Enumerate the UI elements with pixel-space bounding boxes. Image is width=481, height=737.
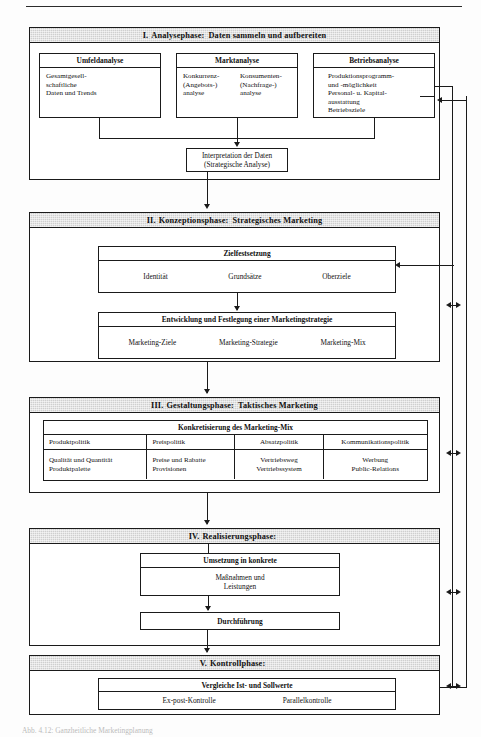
arrowhead-to-interpretation: [234, 142, 240, 147]
phase-header-realisierungsphase: IV. Realisierungsphase :: [30, 529, 439, 544]
top-rule: [26, 6, 462, 7]
text-line: Vertriebssystem: [256, 465, 301, 474]
table-header-cell: Absatzpolitik: [235, 435, 323, 449]
feedback-rail-inner: [452, 86, 453, 688]
text-line: (Strategische Analyse): [204, 160, 270, 169]
text-line: Gesamtgesell-: [46, 72, 154, 81]
feedback-return-bottom: [440, 687, 467, 688]
zielfestsetzung-items: Identität Grundsätze Oberziele: [99, 261, 395, 292]
text-line: Produktpalette: [49, 465, 141, 474]
box-vergleiche-ist-soll: Vergleiche Ist- und Sollwerte Ex-post-Ko…: [98, 678, 396, 710]
item-label: Marketing-Mix: [321, 338, 366, 347]
box-interpretation-der-daten: Interpretation der Daten (Strategische A…: [186, 148, 288, 172]
text-line: Maßnahmen und: [215, 573, 264, 582]
box-title-marketingstrategie: Entwicklung und Festlegung einer Marketi…: [99, 313, 395, 327]
table-cell-kommunikationspolitik: Werbung Public-Relations: [324, 450, 427, 479]
box-marketingstrategie: Entwicklung und Festlegung einer Marketi…: [98, 312, 396, 359]
phase-analysephase: I. Analysephase : Daten sammeln und aufb…: [29, 27, 440, 180]
table-cell-preispolitik: Preise und Rabatte Provisionen: [147, 450, 235, 479]
text-line: analyse: [240, 89, 291, 98]
phase-kontrollphase: V. Kontrollphase : Vergleiche Ist- und S…: [29, 655, 440, 715]
table-body-row: Qualität und Quantität Produktpalette Pr…: [44, 450, 427, 479]
connector-analyse-to-konzeption: [207, 171, 208, 207]
phase-colon: :: [231, 401, 234, 410]
marktanalyse-columns: Konkurrenz- (Angebots-) analyse Konsumen…: [177, 68, 297, 118]
item-label: Marketing-Ziele: [128, 338, 176, 347]
rail-link-konzeption: [451, 305, 459, 306]
text-line: ausstattung: [328, 98, 428, 107]
text-line: Konsumenten-: [240, 72, 291, 81]
feedback-rail-outer: [466, 96, 467, 688]
connector-betrieb-down: [374, 118, 375, 139]
table-caption-konkretisierung: Konkretisierung des Marketing-Mix: [44, 421, 427, 435]
rail-link-gestaltung: [451, 453, 459, 454]
box-title-umsetzung: Umsetzung in konkrete: [141, 554, 339, 568]
diagram-page: I. Analysephase : Daten sammeln und aufb…: [0, 0, 481, 737]
box-title-umfeldanalyse: Umfeldanalyse: [40, 54, 160, 68]
phase-colon: :: [226, 216, 229, 225]
table-header-row: Produktpolitik Preispolitik Absatzpoliti…: [44, 435, 427, 450]
phase-name: Realisierungsphase: [202, 532, 273, 541]
phase-header-gestaltungsphase: III. Gestaltungsphase : Taktisches Marke…: [30, 398, 439, 413]
text-line: Konkurrenz-: [183, 72, 234, 81]
phase-numeral: II.: [147, 216, 156, 225]
text-line: Produktionsprogramm-: [328, 72, 428, 81]
box-umsetzung: Umsetzung in konkrete Maßnahmen und Leis…: [140, 553, 340, 596]
text-line: Vertriebsweg: [260, 456, 297, 465]
phase-subtitle: Taktisches Marketing: [238, 401, 318, 410]
phase-header-analysephase: I. Analysephase : Daten sammeln und aufb…: [30, 28, 439, 43]
phase-header-konzeptionsphase: II. Konzeptionsphase : Strategisches Mar…: [30, 213, 439, 228]
box-label-interpretation: Interpretation der Daten (Strategische A…: [187, 149, 287, 171]
phase-name: Konzeptionsphase: [159, 216, 226, 225]
marketingstrategie-items: Marketing-Ziele Marketing-Strategie Mark…: [99, 327, 395, 358]
box-umfeldanalyse: Umfeldanalyse Gesamtgesell- schaftliche …: [39, 53, 161, 118]
table-cell-absatzpolitik: Vertriebsweg Vertriebssystem: [235, 450, 323, 479]
table-marketing-mix: Konkretisierung des Marketing-Mix Produk…: [43, 420, 428, 481]
arrowhead-to-durchfuehrung: [205, 606, 211, 611]
phase-realisierungsphase: IV. Realisierungsphase : Umsetzung in ko…: [29, 528, 440, 646]
feedback-arrow-line-analyse: [440, 100, 467, 101]
arrowhead-to-gestaltung: [204, 389, 210, 394]
phase-numeral: V.: [200, 659, 207, 668]
text-line: (Nachfrage-): [240, 81, 291, 90]
box-zielfestsetzung: Zielfestsetzung Identität Grundsätze Obe…: [98, 246, 396, 293]
arrowhead-to-kontrolle: [204, 648, 210, 653]
phase-colon: :: [262, 659, 265, 668]
table-header-cell: Produktpolitik: [44, 435, 147, 449]
phase-header-kontrollphase: V. Kontrollphase :: [30, 656, 439, 671]
item-label: Ex-post-Kontrolle: [163, 696, 216, 705]
phase-colon: :: [202, 31, 205, 40]
box-body-umfeldanalyse: Gesamtgesell- schaftliche Daten und Tren…: [40, 68, 160, 102]
text-line: Preise und Rabatte: [152, 456, 229, 465]
box-title-marktanalyse: Marktanalyse: [177, 54, 297, 68]
phase-subtitle: Daten sammeln und aufbereiten: [208, 31, 326, 40]
feedback-branch-betriebsanalyse: [434, 86, 453, 87]
box-marktanalyse: Marktanalyse Konkurrenz- (Angebots-) ana…: [176, 53, 298, 118]
table-header-cell: Preispolitik: [147, 435, 235, 449]
box-title-durchfuehrung: Durchführung: [141, 613, 339, 629]
phase-name: Kontrollphase: [210, 659, 263, 668]
item-label: Marketing-Strategie: [219, 338, 278, 347]
box-title-zielfestsetzung: Zielfestsetzung: [99, 247, 395, 261]
text-line: und -möglichkeit: [328, 81, 428, 90]
box-title-betriebsanalyse: Betriebsanalyse: [314, 54, 434, 68]
phase-numeral: III.: [151, 401, 163, 410]
item-label: Parallelkontrolle: [283, 696, 332, 705]
phase-konzeptionsphase: II. Konzeptionsphase : Strategisches Mar…: [29, 212, 440, 362]
arrowhead-to-strategie: [234, 306, 240, 311]
arrowhead-feedback-konzeption: [395, 262, 400, 268]
text-line: Leistungen: [224, 582, 256, 591]
arrowhead-to-konzeption: [204, 204, 210, 209]
phase-name: Analysephase: [151, 31, 201, 40]
box-durchfuehrung: Durchführung: [140, 612, 340, 630]
phase-name: Gestaltungsphase: [166, 401, 231, 410]
text-line: Interpretation der Daten: [202, 151, 272, 160]
arrowhead-feedback-analyse: [437, 97, 442, 103]
feedback-branch-betriebsanalyse-in: [420, 96, 435, 97]
marktanalyse-column-konkurrenz: Konkurrenz- (Angebots-) analyse: [177, 68, 240, 118]
item-label: Oberziele: [322, 272, 350, 281]
connector-markt-down: [237, 118, 238, 144]
arrowhead-to-realisierung: [204, 520, 210, 525]
text-line: Daten und Trends: [46, 89, 154, 98]
text-line: Provisionen: [152, 465, 229, 474]
